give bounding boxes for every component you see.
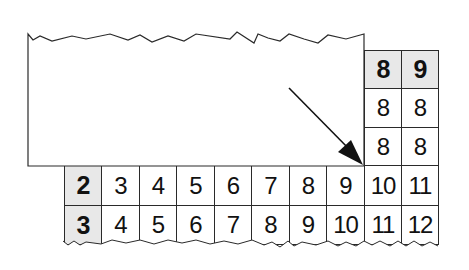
overlay-graphics (0, 0, 469, 270)
cover-sheet (28, 32, 364, 166)
torn-bottom-edge (63, 240, 440, 262)
